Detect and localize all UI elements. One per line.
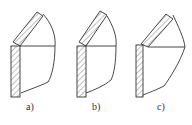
figure-label-c: c) bbox=[157, 101, 165, 112]
slanted-plate bbox=[13, 12, 43, 46]
figure-b bbox=[77, 11, 116, 97]
vertical-plate bbox=[11, 46, 20, 97]
figure-a bbox=[11, 12, 55, 97]
vertical-plate bbox=[136, 45, 143, 97]
figure-label-a: a) bbox=[26, 101, 34, 112]
vertical-plate bbox=[77, 46, 86, 97]
figure-c bbox=[136, 14, 185, 97]
slanted-plate bbox=[141, 14, 173, 47]
slanted-plate bbox=[79, 11, 107, 46]
figure-label-b: b) bbox=[92, 101, 100, 112]
